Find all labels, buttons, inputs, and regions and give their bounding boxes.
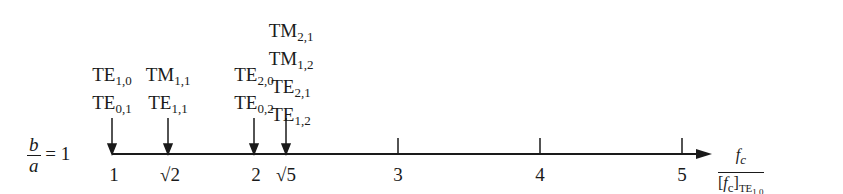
axis-label: fc [fc]TE1,0	[718, 145, 764, 194]
mode-label-1: TE1,0 TE0,1	[92, 64, 131, 120]
tick-label-1: 1	[109, 164, 119, 186]
mode-label-sqrt5: TM2,1 TM1,2 TE2,1 TE1,2	[269, 20, 314, 132]
tick-label-sqrt5: √5	[276, 164, 296, 186]
tick-label-2: 2	[251, 164, 261, 186]
tick-label-3: 3	[393, 164, 403, 186]
tick-label-4: 4	[535, 164, 545, 186]
tick-label-sqrt2: √2	[160, 164, 180, 186]
aspect-ratio-label: ba = 1	[27, 135, 70, 176]
tick-label-5: 5	[677, 164, 687, 186]
mode-label-sqrt2: TM1,1 TE1,1	[146, 64, 191, 120]
